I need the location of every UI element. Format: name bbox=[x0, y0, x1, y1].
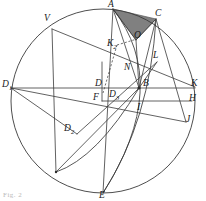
vertex-dot-B bbox=[137, 86, 140, 89]
point-label-C: C bbox=[155, 9, 161, 19]
point-label-H: H bbox=[189, 94, 196, 104]
point-label-D2: D2 bbox=[64, 124, 74, 135]
figure-canvas bbox=[0, 0, 206, 201]
point-label-K2: K2 bbox=[107, 39, 117, 50]
segment-C-J bbox=[156, 19, 186, 122]
point-label-L: L bbox=[153, 51, 158, 61]
point-label-O: O bbox=[134, 31, 141, 41]
point-label-D3: D3 bbox=[109, 90, 119, 101]
geometry-figure: A C O K2 L N V D1 D B K D3 F I H J D2 E … bbox=[0, 0, 206, 201]
point-label-K: K bbox=[191, 79, 197, 89]
segment-V-K bbox=[52, 29, 195, 87]
point-label-B: B bbox=[143, 79, 149, 89]
vertex-dot-SW bbox=[55, 171, 57, 173]
point-label-A: A bbox=[108, 0, 114, 10]
point-label-V: V bbox=[44, 14, 50, 24]
caption-fragment: Fig. 2 bbox=[3, 191, 22, 199]
point-label-N: N bbox=[124, 63, 130, 73]
point-label-F: F bbox=[93, 93, 99, 103]
point-label-E: E bbox=[99, 191, 105, 201]
point-label-J: J bbox=[186, 115, 190, 125]
point-label-I: I bbox=[137, 103, 140, 113]
segment-V-SW bbox=[52, 29, 56, 172]
point-label-D1: D1 bbox=[2, 80, 12, 91]
segment-group bbox=[11, 9, 195, 193]
point-label-D: D bbox=[95, 79, 102, 89]
